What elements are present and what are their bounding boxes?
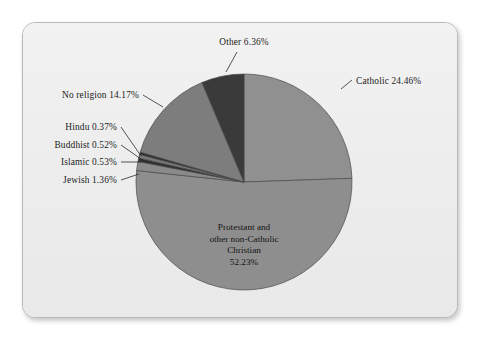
chart-page: Catholic 24.46%Protestant andother non-C… <box>0 0 487 342</box>
slice-label-line: 52.23% <box>230 257 259 267</box>
pie-chart: Catholic 24.46%Protestant andother non-C… <box>0 0 487 342</box>
slice-label: Hindu 0.37% <box>65 122 117 132</box>
slice-label: No religion 14.17% <box>62 90 139 100</box>
slice-label: Islamic 0.53% <box>61 157 117 167</box>
pie-slice[interactable] <box>244 74 352 182</box>
leader-line <box>226 52 237 72</box>
slice-label: Buddhist 0.52% <box>54 140 117 150</box>
slice-label: Catholic 24.46% <box>356 76 421 86</box>
leader-line <box>143 95 163 107</box>
leader-line <box>341 80 352 89</box>
slice-label: Other 6.36% <box>219 37 269 47</box>
slice-label-line: other non-Catholic <box>209 234 278 244</box>
slice-label-line: Christian <box>227 245 261 255</box>
slice-label-line: Protestant and <box>218 222 271 232</box>
slice-label: Jewish 1.36% <box>63 175 117 185</box>
